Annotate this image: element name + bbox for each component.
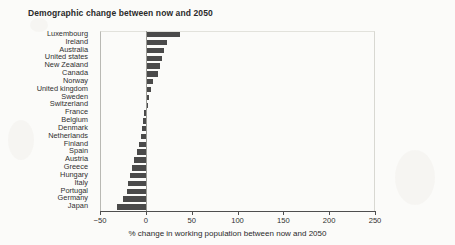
chart-title: Demographic change between now and 2050 (28, 8, 213, 18)
bar (117, 204, 146, 209)
x-tick (238, 211, 239, 215)
bar (146, 32, 180, 37)
x-tick-label: 250 (369, 216, 382, 225)
x-axis-label: % change in working population between n… (0, 229, 455, 238)
x-tick-label: −50 (94, 216, 107, 225)
x-tick (146, 211, 147, 215)
bar (127, 189, 146, 194)
bar (146, 40, 167, 45)
bar-row: Japan (0, 203, 455, 211)
x-tick-label: 100 (231, 216, 244, 225)
x-tick-label: 150 (277, 216, 290, 225)
bar (139, 142, 146, 147)
bar (134, 157, 146, 162)
bar (137, 149, 146, 154)
zero-baseline (146, 31, 147, 211)
bar (146, 48, 164, 53)
x-tick-label: 0 (144, 216, 148, 225)
bar (123, 196, 146, 201)
bar (146, 56, 163, 61)
bars-container: LuxembourgIrelandAustraliaUnited statesN… (0, 31, 455, 211)
x-tick (329, 211, 330, 215)
demographic-change-bar-chart: Demographic change between now and 2050 … (0, 0, 455, 245)
category-label: Japan (0, 202, 88, 211)
x-tick (100, 211, 101, 215)
x-tick-label: 50 (187, 216, 195, 225)
bar (130, 173, 146, 178)
x-tick-label: 200 (323, 216, 336, 225)
bar (146, 79, 153, 84)
x-tick (283, 211, 284, 215)
bar (128, 181, 145, 186)
x-tick (192, 211, 193, 215)
bar (132, 165, 146, 170)
x-tick (375, 211, 376, 215)
bar (146, 71, 158, 76)
bar (146, 63, 161, 68)
